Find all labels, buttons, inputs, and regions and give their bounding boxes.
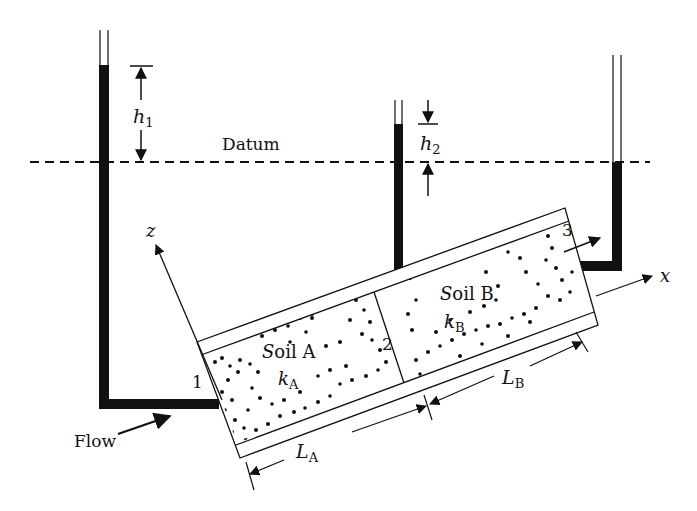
datum-label: Datum	[222, 134, 280, 154]
x-axis-label: x	[660, 265, 670, 286]
soil-b-label: Soil B	[440, 283, 494, 304]
z-axis-arrow-icon	[156, 245, 222, 400]
h2-label: h2	[420, 132, 441, 157]
lb-label: LB	[501, 366, 524, 391]
soil-a-label: Soil A	[262, 341, 316, 362]
flow-arrow-icon	[118, 416, 170, 434]
point-1-label: 1	[192, 372, 203, 392]
point-2-label: 2	[382, 334, 393, 354]
point-3-label: 3	[562, 220, 573, 240]
x-axis-arrow-icon	[596, 276, 652, 296]
h1-label: h1	[133, 105, 154, 130]
z-axis-label: z	[145, 220, 156, 241]
soil-flow-diagram: Datum h1 h2	[0, 0, 697, 511]
la-label: LA	[295, 440, 319, 465]
flow-label: Flow	[74, 431, 116, 451]
